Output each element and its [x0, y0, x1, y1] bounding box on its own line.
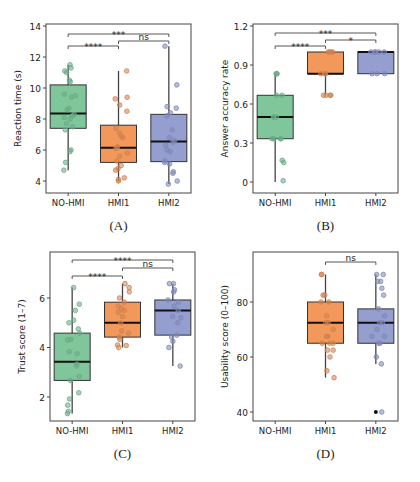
panel-a: 468101214Reaction time (s)NO-HMIHMI1HMI2…	[13, 22, 191, 234]
x-tick-label: HMI1	[108, 198, 130, 208]
significance-label: ****	[88, 272, 107, 282]
y-tick-label: 0.9	[234, 61, 249, 71]
data-point	[118, 320, 123, 325]
significance-label: ns	[138, 32, 149, 42]
box-hmi1	[308, 50, 344, 98]
box-no-hmi	[54, 285, 90, 416]
data-point	[274, 71, 279, 76]
data-point	[62, 92, 67, 97]
data-point	[178, 364, 183, 369]
significance-label: ****	[291, 42, 310, 52]
box-hmi2	[151, 44, 187, 187]
significance-label: ns	[142, 259, 153, 269]
data-point	[328, 355, 333, 360]
data-point	[382, 71, 387, 76]
data-point	[163, 44, 168, 49]
box-hmi1	[308, 272, 344, 380]
x-tick-label: NO-HMI	[56, 426, 89, 436]
data-point	[63, 128, 68, 133]
y-tick-label: 14	[30, 22, 42, 32]
significance-label: ***	[319, 29, 333, 39]
significance-label: ****	[84, 42, 103, 52]
y-axis-label: Reaction time (s)	[13, 70, 23, 147]
panel-d: 406080Usability score (0–100)NO-HMIHMI1H…	[220, 252, 398, 461]
data-point	[127, 290, 132, 295]
data-point	[176, 320, 181, 325]
data-point	[279, 136, 284, 141]
data-point	[376, 307, 381, 312]
data-point	[171, 339, 176, 344]
data-point	[327, 341, 332, 346]
data-point	[322, 293, 327, 298]
y-tick-label: 40	[237, 408, 249, 418]
data-point	[326, 50, 331, 55]
data-point	[280, 93, 285, 98]
data-point	[381, 293, 386, 298]
x-tick-label: HMI2	[158, 198, 180, 208]
data-point	[65, 411, 70, 416]
data-point	[119, 329, 124, 334]
data-point	[71, 285, 76, 290]
y-tick-label: 4	[39, 343, 45, 353]
data-point	[126, 331, 131, 336]
x-tick-label: NO-HMI	[259, 198, 292, 208]
data-point	[65, 107, 70, 112]
y-tick-label: 60	[237, 353, 249, 363]
data-point	[68, 378, 73, 383]
data-point	[374, 355, 379, 360]
data-point	[325, 368, 330, 373]
data-point	[71, 318, 76, 323]
data-point	[162, 160, 167, 165]
data-point	[320, 341, 325, 346]
data-point	[68, 80, 73, 85]
data-point	[378, 341, 383, 346]
data-point	[370, 334, 375, 339]
data-point	[75, 351, 80, 356]
data-point	[329, 93, 334, 98]
data-point	[125, 151, 130, 156]
data-point	[65, 403, 70, 408]
data-point	[382, 50, 387, 55]
data-point	[63, 160, 68, 165]
data-point	[77, 302, 82, 307]
data-point	[116, 345, 121, 350]
box-hmi1	[101, 69, 137, 184]
significance-label: *	[348, 36, 353, 46]
significance-label: ***	[112, 30, 126, 40]
data-point	[326, 320, 331, 325]
data-point	[122, 300, 127, 305]
data-point	[122, 308, 127, 313]
data-point	[168, 149, 173, 154]
data-point	[117, 103, 122, 108]
data-point	[67, 349, 72, 354]
panel-caption: (B)	[317, 218, 334, 233]
data-point	[167, 135, 172, 140]
y-tick-label: 2	[39, 393, 45, 403]
data-point	[167, 162, 172, 167]
data-point	[171, 171, 176, 176]
data-point	[381, 272, 386, 277]
data-point	[62, 115, 67, 120]
data-point	[114, 159, 119, 164]
data-point	[166, 298, 171, 303]
data-point	[167, 281, 172, 286]
data-point	[332, 375, 337, 380]
data-point	[172, 304, 177, 309]
data-point	[175, 83, 180, 88]
x-tick-label: HMI2	[365, 426, 387, 436]
data-point	[122, 176, 127, 181]
data-point	[323, 71, 328, 76]
data-point	[62, 168, 67, 173]
data-point	[76, 390, 81, 395]
data-point	[124, 69, 129, 74]
y-tick-label: 80	[237, 298, 249, 308]
data-point	[125, 95, 130, 100]
panel-caption: (A)	[109, 218, 127, 233]
data-point	[379, 362, 384, 367]
x-tick-label: HMI2	[162, 426, 184, 436]
data-point	[171, 290, 176, 295]
outlier-marker	[374, 410, 378, 414]
data-point	[68, 117, 73, 122]
data-point	[113, 168, 118, 173]
data-point	[380, 286, 385, 291]
